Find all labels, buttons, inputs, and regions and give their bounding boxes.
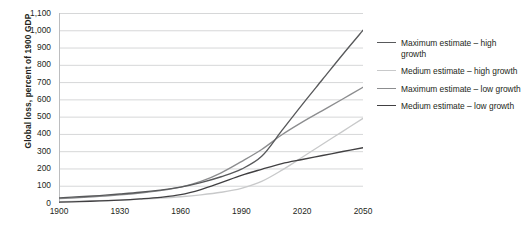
legend-item-label: Medium estimate – high growth: [401, 66, 522, 77]
x-axis-tick-label: 1960: [151, 206, 211, 216]
x-axis-tick-label: 1930: [90, 206, 150, 216]
legend-item[interactable]: Maximum estimate – high growth: [377, 38, 522, 59]
legend-color-swatch: [377, 105, 396, 106]
legend-color-swatch: [377, 42, 396, 43]
legend-item-label: Maximum estimate – low growth: [401, 84, 522, 95]
legend-item[interactable]: Medium estimate – high growth: [377, 66, 522, 77]
legend-item[interactable]: Maximum estimate – low growth: [377, 84, 522, 95]
legend-item-label: Medium estimate – low growth: [401, 101, 522, 112]
legend-item-label: Maximum estimate – high growth: [401, 38, 522, 59]
x-axis-tick-label: 1900: [29, 206, 89, 216]
chart-container: Global loss, percent of 1900 GDP 0100200…: [0, 0, 522, 242]
x-axis-tick-label: 1990: [211, 206, 271, 216]
chart-legend: Maximum estimate – high growthMedium est…: [377, 38, 522, 119]
x-axis-tick-labels: 190019301960199020202050: [0, 0, 522, 242]
x-axis-tick-label: 2020: [272, 206, 332, 216]
legend-color-swatch: [377, 88, 396, 89]
legend-item[interactable]: Medium estimate – low growth: [377, 101, 522, 112]
legend-color-swatch: [377, 70, 396, 71]
x-axis-tick-label: 2050: [333, 206, 393, 216]
